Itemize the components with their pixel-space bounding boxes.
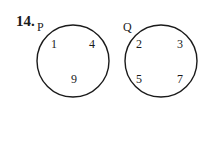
set-q-element: 5 — [136, 72, 142, 87]
set-p-element: 1 — [51, 37, 57, 52]
set-p-label: P — [37, 20, 44, 35]
set-q-element: 2 — [136, 37, 142, 52]
set-p-element: 4 — [89, 37, 95, 52]
set-q-label: Q — [123, 20, 132, 35]
set-p-element: 9 — [71, 72, 77, 87]
set-q-element: 3 — [177, 37, 183, 52]
set-q-element: 7 — [177, 72, 183, 87]
